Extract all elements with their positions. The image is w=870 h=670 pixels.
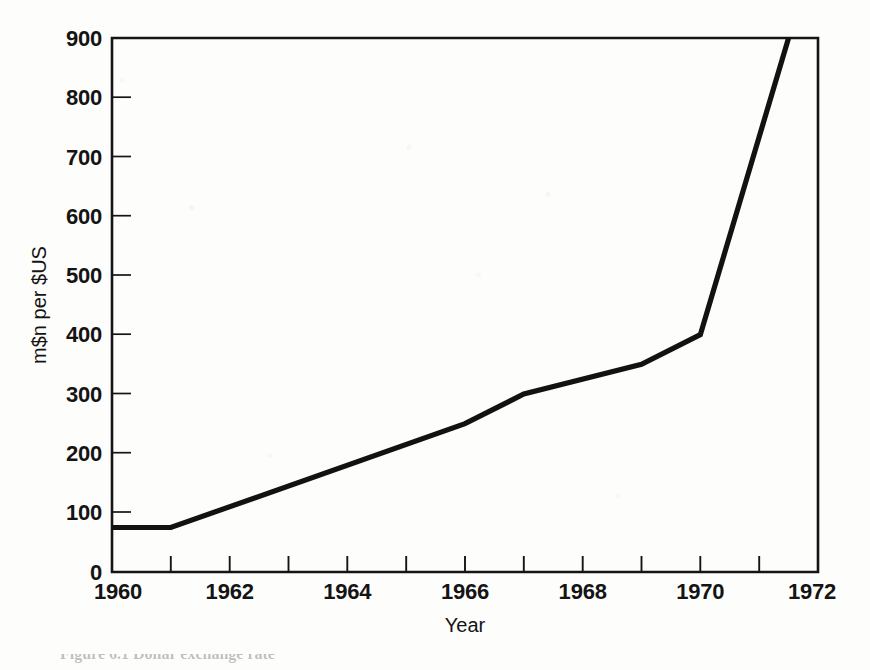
figure-page: 0 100 200 300 400 500 600 700 800 900 m$… <box>0 0 870 670</box>
x-axis-tick-labels: 1960 1962 1964 1966 1968 1970 1972 <box>94 579 836 604</box>
y-axis-tick-labels: 0 100 200 300 400 500 600 700 800 900 <box>66 26 102 585</box>
x-tick-label: 1970 <box>676 579 724 604</box>
x-tick-label: 1962 <box>206 579 254 604</box>
plot-frame <box>112 38 818 572</box>
x-tick-label: 1964 <box>323 579 372 604</box>
y-tick-label: 800 <box>66 85 102 110</box>
line-chart: 0 100 200 300 400 500 600 700 800 900 m$… <box>0 0 870 670</box>
x-axis-ticks <box>171 556 759 572</box>
x-tick-label: 1960 <box>94 579 142 604</box>
series-line-exchange-rate <box>112 38 789 528</box>
y-axis-ticks <box>112 97 131 512</box>
y-tick-label: 500 <box>66 263 102 288</box>
series-group <box>112 38 789 528</box>
y-tick-label: 600 <box>66 204 102 229</box>
y-tick-label: 300 <box>66 382 102 407</box>
x-axis-title: Year <box>445 614 486 636</box>
x-tick-label: 1968 <box>559 579 607 604</box>
y-tick-label: 700 <box>66 145 102 170</box>
y-tick-label: 400 <box>66 322 102 347</box>
y-axis-title: m$n per $US <box>28 246 50 364</box>
x-tick-label: 1966 <box>441 579 489 604</box>
y-tick-label: 200 <box>66 441 102 466</box>
y-tick-label: 100 <box>66 500 102 525</box>
x-tick-label: 1972 <box>788 579 836 604</box>
y-tick-label: 900 <box>66 26 102 51</box>
